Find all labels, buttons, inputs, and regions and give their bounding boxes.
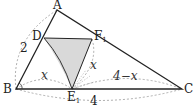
triangle-diagram: A B C D F1 E1 2 x x 4−x 4 bbox=[0, 0, 196, 107]
length-2: 2 bbox=[20, 41, 28, 55]
length-fe: x bbox=[90, 58, 97, 72]
length-bc: 4 bbox=[90, 94, 98, 107]
dashed-arc-bc bbox=[16, 89, 182, 101]
shaded-region bbox=[44, 38, 92, 89]
length-be: x bbox=[41, 68, 48, 82]
label-b: B bbox=[3, 82, 12, 96]
label-f: F1 bbox=[94, 29, 107, 44]
label-e: E1 bbox=[67, 90, 80, 105]
label-a: A bbox=[52, 0, 62, 12]
length-ec: 4−x bbox=[112, 69, 138, 83]
label-d: D bbox=[32, 29, 42, 43]
label-c: C bbox=[184, 82, 193, 96]
